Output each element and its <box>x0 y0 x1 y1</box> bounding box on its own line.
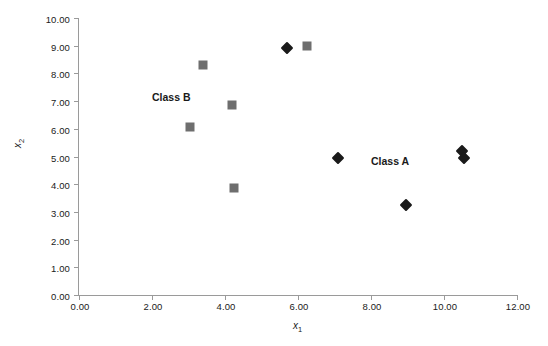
x-axis-tick: 4.00 <box>225 295 226 300</box>
x-axis-title-subscript: 1 <box>298 325 302 334</box>
y-axis-tick-label: 9.00 <box>51 41 70 52</box>
x-axis-tick-label: 6.00 <box>290 301 309 312</box>
data-point-class-b <box>230 184 239 193</box>
y-axis-tick-label: 0.00 <box>51 291 70 302</box>
y-axis-tick: 8.00 <box>74 73 79 74</box>
y-axis-tick-label: 3.00 <box>51 207 70 218</box>
y-axis-tick-label: 2.00 <box>51 235 70 246</box>
x-axis-tick: 8.00 <box>371 295 372 300</box>
x-axis-tick-label: 10.00 <box>433 301 457 312</box>
y-axis-title-base: x <box>12 143 23 148</box>
x-axis-tick-label: 2.00 <box>144 301 163 312</box>
data-point-class-b <box>303 41 312 50</box>
y-axis-tick: 7.00 <box>74 101 79 102</box>
annotation-class-a: Class A <box>371 155 409 167</box>
data-point-class-b <box>186 123 195 132</box>
y-axis-tick: 4.00 <box>74 184 79 185</box>
x-axis-tick: 0.00 <box>79 295 80 300</box>
data-point-class-a <box>399 199 412 212</box>
x-axis-tick: 6.00 <box>298 295 299 300</box>
y-axis-tick-label: 7.00 <box>51 97 70 108</box>
data-point-class-b <box>228 101 237 110</box>
y-axis-tick: 10.00 <box>74 18 79 19</box>
y-axis-tick: 5.00 <box>74 157 79 158</box>
x-axis-title: x1 <box>78 320 517 334</box>
x-axis-tick-label: 12.00 <box>506 301 530 312</box>
y-axis-tick: 9.00 <box>74 46 79 47</box>
plot-area: 0.001.002.003.004.005.006.007.008.009.00… <box>78 18 517 296</box>
y-axis-tick-label: 5.00 <box>51 152 70 163</box>
y-axis-tick: 2.00 <box>74 240 79 241</box>
y-axis-tick-label: 10.00 <box>46 14 70 25</box>
x-axis-tick-label: 8.00 <box>363 301 382 312</box>
y-axis-tick-label: 1.00 <box>51 263 70 274</box>
y-axis-tick-label: 6.00 <box>51 124 70 135</box>
x-axis-tick-label: 0.00 <box>71 301 90 312</box>
y-axis-tick: 1.00 <box>74 267 79 268</box>
annotation-class-b: Class B <box>152 91 191 103</box>
y-axis-tick: 3.00 <box>74 212 79 213</box>
y-axis-title-subscript: 2 <box>17 139 26 143</box>
scatter-chart: x2 x1 0.001.002.003.004.005.006.007.008.… <box>0 0 548 346</box>
x-axis-tick: 10.00 <box>444 295 445 300</box>
data-point-class-a <box>281 42 294 55</box>
x-axis-tick-label: 4.00 <box>217 301 236 312</box>
y-axis-tick: 6.00 <box>74 129 79 130</box>
y-axis-title: x2 <box>12 139 26 148</box>
data-point-class-b <box>199 61 208 70</box>
x-axis-tick: 12.00 <box>517 295 518 300</box>
y-axis-tick-label: 8.00 <box>51 69 70 80</box>
y-axis-tick-label: 4.00 <box>51 180 70 191</box>
data-point-class-a <box>332 152 345 165</box>
x-axis-tick: 2.00 <box>152 295 153 300</box>
